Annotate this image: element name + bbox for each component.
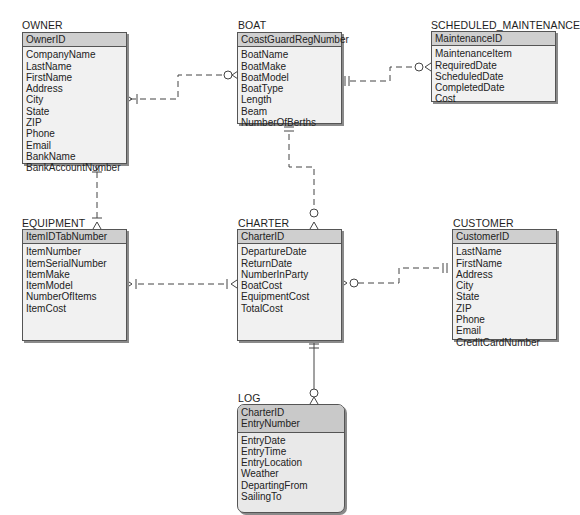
attribute: NumberOfItems [26,291,123,302]
primary-key-attribute: CoastGuardRegNumber [241,34,338,45]
attribute: ReturnDate [241,258,338,269]
attribute: Address [456,269,553,280]
attribute: EquipmentCost [241,291,338,302]
attribute: State [26,106,123,117]
attribute: ZIP [456,303,553,314]
primary-key-attribute: CharterID [241,407,341,418]
attribute: City [26,94,123,105]
attribute: Weather [241,468,341,479]
attribute: Phone [26,128,123,139]
entity-box: CustomerID LastName FirstName Address Ci… [452,229,557,340]
attribute: NumberInParty [241,269,338,280]
primary-key-section: CharterID [238,230,341,244]
attribute: Length [241,94,338,105]
primary-key-section: CustomerID [453,230,556,244]
attribute-list: BoatName BoatMake BoatModel BoatType Len… [238,47,341,130]
primary-key-attribute: CharterID [241,231,338,242]
attribute: Address [26,83,123,94]
primary-key-attribute: ItemIDTabNumber [26,231,123,242]
entity-title: LOG [238,392,260,404]
attribute: CreditCardNumber [456,337,553,348]
attribute: FirstName [26,72,123,83]
entity-title: BOAT [238,19,266,31]
attribute: BoatName [241,49,338,60]
attribute: Email [456,325,553,336]
attribute: DepartureDate [241,246,338,257]
attribute: EntryDate [241,435,341,446]
attribute: Beam [241,106,338,117]
entity-box: OwnerID CompanyName LastName FirstName A… [22,32,127,164]
attribute: Email [26,140,123,151]
attribute: ZIP [26,117,123,128]
attribute-list: EntryDate EntryTime EntryLocation Weathe… [238,433,344,505]
attribute: RequiredDate [435,60,552,71]
attribute: State [456,291,553,302]
attribute-list: MaintenanceItem RequiredDate ScheduledDa… [432,46,555,106]
primary-key-attribute: CustomerID [456,231,553,242]
primary-key-attribute: OwnerID [26,34,123,45]
attribute: ScheduledDate [435,71,552,82]
entity-title: EQUIPMENT [22,217,85,229]
attribute: ItemNumber [26,246,123,257]
primary-key-section: CharterID EntryNumber [238,405,344,433]
attribute: LastName [26,61,123,72]
entity-box: MaintenanceID MaintenanceItem RequiredDa… [431,31,556,102]
attribute: SailingTo [241,491,341,502]
attribute: ItemSerialNumber [26,258,123,269]
attribute: LastName [456,246,553,257]
entity-box: CharterID EntryNumber EntryDate EntryTim… [237,404,345,513]
primary-key-section: ItemIDTabNumber [23,230,126,244]
attribute: Phone [456,314,553,325]
attribute: CompanyName [26,49,123,60]
attribute: BoatCost [241,280,338,291]
attribute: BoatMake [241,61,338,72]
primary-key-section: CoastGuardRegNumber [238,33,341,47]
primary-key-section: MaintenanceID [432,32,555,46]
entity-box: CharterID DepartureDate ReturnDate Numbe… [237,229,342,341]
attribute: ItemCost [26,303,123,314]
primary-key-attribute: EntryNumber [241,418,341,429]
entity-title: OWNER [22,19,63,31]
attribute-list: LastName FirstName Address City State ZI… [453,244,556,350]
attribute: MaintenanceItem [435,48,552,59]
attribute: BoatType [241,83,338,94]
attribute: TotalCost [241,303,338,314]
entity-title: CUSTOMER [453,217,514,229]
attribute: City [456,280,553,291]
entity-box: CoastGuardRegNumber BoatName BoatMake Bo… [237,32,342,124]
entity-title: SCHEDULED_MAINTENANCE [431,19,580,31]
attribute: BoatModel [241,72,338,83]
attribute: BankAccountNumber [26,162,123,173]
rel-owner-boat [130,75,225,99]
entity-box: ItemIDTabNumber ItemNumber ItemSerialNum… [22,229,127,341]
attribute-list: DepartureDate ReturnDate NumberInParty B… [238,244,341,316]
entity-title: CHARTER [238,217,289,229]
primary-key-attribute: MaintenanceID [435,33,552,44]
attribute-list: CompanyName LastName FirstName Address C… [23,47,126,175]
attribute: NumberOfBerths [241,117,338,128]
attribute: Cost [435,93,552,104]
attribute: ItemModel [26,280,123,291]
attribute: FirstName [456,258,553,269]
attribute: BankName [26,151,123,162]
primary-key-section: OwnerID [23,33,126,47]
attribute: EntryLocation [241,457,341,468]
attribute: EntryTime [241,446,341,457]
attribute-list: ItemNumber ItemSerialNumber ItemMake Ite… [23,244,126,316]
attribute: DepartingFrom [241,480,341,491]
attribute: CompletedDate [435,82,552,93]
attribute: ItemMake [26,269,123,280]
